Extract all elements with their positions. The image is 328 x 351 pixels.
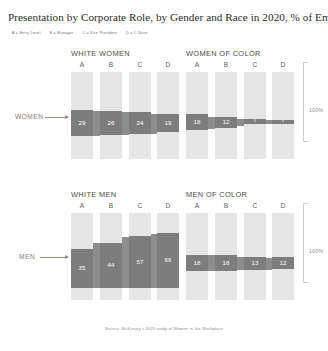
plot-women-of-color: A B C D 18 12 5 4 (186, 61, 294, 159)
segment-d: 19 (157, 114, 179, 132)
segment-value-c: 13 (251, 260, 258, 266)
segment-d: 4 (272, 120, 294, 124)
panel-men-of-color: MEN OF COLOR A B C D 18 18 13 (186, 190, 294, 302)
panel-white-men: WHITE MEN A B C D 35 44 57 (71, 190, 179, 302)
segment-value-a: 35 (78, 265, 85, 271)
legend-item-b: B = Manager (49, 31, 73, 35)
group-label-men: MEN (19, 253, 35, 260)
segment-value-c: 57 (136, 259, 143, 265)
segment-value-c: 24 (136, 120, 143, 126)
panel-white-women: WHITE WOMEN A B C D 29 26 24 (71, 49, 179, 161)
column-background-d (272, 72, 294, 159)
ribbon-ab (208, 117, 215, 129)
axis-label-men: 100% (309, 248, 323, 254)
column-label-a: A (186, 202, 208, 209)
column-background-c (244, 72, 266, 159)
column-label-c: C (244, 202, 266, 209)
segment-d: 66 (157, 233, 179, 288)
column-labels-women-of-color: A B C D (186, 61, 294, 72)
column-label-b: B (100, 202, 122, 209)
columns-women-of-color: 18 12 5 4 (186, 72, 294, 159)
legend-item-a: A = Entry Level (12, 31, 40, 35)
column-label-b: B (215, 61, 237, 68)
column-label-a: A (71, 202, 93, 209)
column-label-a: A (71, 61, 93, 68)
panel-title-white-women: WHITE WOMEN (71, 49, 130, 58)
column-label-d: D (157, 61, 179, 68)
column-label-c: C (244, 61, 266, 68)
segment-value-b: 26 (107, 120, 114, 126)
column-label-a: A (186, 61, 208, 68)
axis-bracket-women (303, 62, 308, 142)
axis-label-women: 100% (309, 107, 323, 113)
column-label-b: B (215, 202, 237, 209)
column-label-c: C (129, 61, 151, 68)
column-background-b (215, 72, 237, 159)
column-labels-white-women: A B C D (71, 61, 179, 72)
columns-white-women: 29 26 24 19 (71, 72, 179, 159)
page-title: Presentation by Corporate Role, by Gende… (8, 11, 322, 24)
ribbon-bc (237, 119, 244, 126)
segment-value-d: 12 (279, 260, 286, 266)
segment-a: 29 (71, 110, 93, 136)
group-arrow-women (45, 117, 68, 118)
column-labels-men-of-color: A B C D (186, 202, 294, 213)
column-label-d: D (272, 202, 294, 209)
ribbon-ab (93, 243, 100, 288)
legend-item-d: D = C-Suite (126, 31, 148, 35)
group-arrow-men (40, 257, 68, 258)
segment-value-a: 29 (78, 120, 85, 126)
segment-value-b: 12 (222, 119, 229, 125)
ribbon-bc (122, 237, 129, 288)
segment-value-c: 5 (254, 120, 256, 124)
segment-value-a: 18 (193, 260, 200, 266)
legend: A = Entry Level B = Manager C = Vice Pre… (12, 31, 148, 35)
ribbon-ab (93, 111, 100, 136)
segment-a: 18 (186, 255, 208, 271)
segment-value-b: 44 (107, 262, 114, 268)
plot-white-men: A B C D 35 44 57 66 (71, 202, 179, 300)
segment-c: 57 (129, 236, 151, 288)
segment-value-a: 18 (193, 119, 200, 125)
columns-men-of-color: 18 18 13 12 (186, 213, 294, 300)
column-label-d: D (272, 61, 294, 68)
segment-c: 5 (244, 119, 266, 124)
segment-b: 26 (100, 111, 122, 135)
panel-title-women-of-color: WOMEN OF COLOR (186, 49, 261, 58)
column-label-c: C (129, 202, 151, 209)
legend-item-c: C = Vice President (82, 31, 117, 35)
ribbon-bc (237, 257, 244, 270)
ribbon-bc (122, 112, 129, 135)
segment-b: 44 (100, 243, 122, 288)
segment-c: 13 (244, 257, 266, 270)
segment-b: 18 (215, 255, 237, 271)
group-label-women: WOMEN (15, 113, 44, 120)
ribbon-ab (208, 255, 215, 271)
segment-value-d: 66 (164, 257, 171, 263)
column-label-d: D (157, 202, 179, 209)
panel-title-men-of-color: MEN OF COLOR (186, 190, 247, 199)
column-labels-white-men: A B C D (71, 202, 179, 213)
segment-a: 35 (71, 249, 93, 288)
panel-title-white-men: WHITE MEN (71, 190, 116, 199)
panel-women-of-color: WOMEN OF COLOR A B C D 18 12 5 (186, 49, 294, 161)
columns-white-men: 35 44 57 66 (71, 213, 179, 300)
plot-white-women: A B C D 29 26 24 19 (71, 61, 179, 159)
axis-bracket-men (303, 203, 308, 283)
segment-b: 12 (215, 117, 237, 128)
segment-a: 18 (186, 114, 208, 130)
column-label-b: B (100, 61, 122, 68)
segment-value-d: 4 (282, 120, 284, 124)
plot-men-of-color: A B C D 18 18 13 12 (186, 202, 294, 300)
segment-value-d: 19 (164, 120, 171, 126)
segment-c: 24 (129, 112, 151, 134)
segment-value-b: 18 (222, 260, 229, 266)
segment-d: 12 (272, 257, 294, 269)
source-note: Source: McKinsey's 2020 study of Women i… (0, 326, 328, 331)
